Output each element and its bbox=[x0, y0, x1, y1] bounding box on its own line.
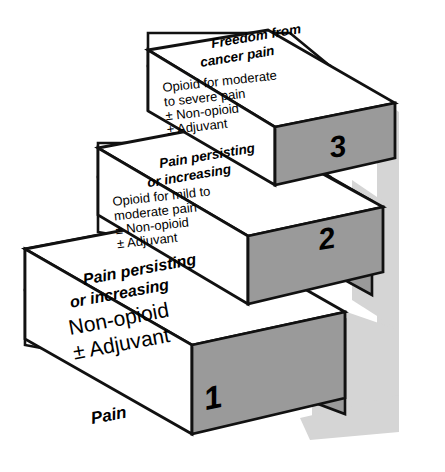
who-analgesic-ladder-figure: Freedom from cancer pain Opioid for mode… bbox=[0, 0, 445, 472]
base-label-pain: Pain bbox=[89, 403, 128, 428]
